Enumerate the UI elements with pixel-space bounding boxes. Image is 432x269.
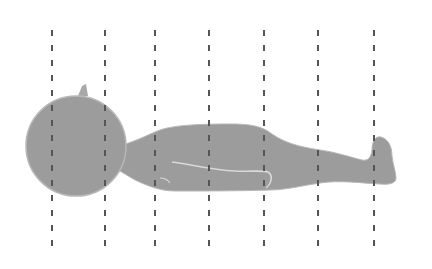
human-silhouette [26, 84, 396, 196]
body-shape [118, 124, 396, 191]
head-shape [26, 96, 126, 196]
hair-tuft [78, 84, 88, 96]
diagram-canvas [0, 0, 432, 269]
